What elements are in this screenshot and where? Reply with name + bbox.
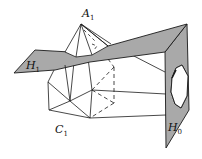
label-h1: H1 xyxy=(26,60,40,74)
label-a1: A1 xyxy=(82,8,94,22)
label-c1: C1 xyxy=(55,124,68,138)
label-h0: H0 xyxy=(168,122,182,136)
polyhedron-front xyxy=(65,65,70,101)
